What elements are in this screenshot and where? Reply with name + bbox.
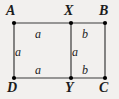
- vertex-label-a: A: [6, 4, 15, 18]
- edge-length-label-dy: a: [35, 64, 41, 76]
- vertex-dot-b: [103, 21, 107, 25]
- edge-length-label-xy: a: [72, 46, 78, 58]
- vertex-dot-a: [12, 21, 16, 25]
- edge-layer: [14, 23, 105, 78]
- vertex-dot-layer: [12, 21, 107, 80]
- vertex-label-x: X: [64, 4, 73, 18]
- edge-length-label-ad: a: [15, 46, 21, 58]
- edge-length-label-yc: b: [82, 64, 88, 76]
- vertex-label-c: C: [99, 81, 108, 95]
- edge-length-label-xb: b: [82, 28, 88, 40]
- vertex-label-y: Y: [65, 81, 74, 95]
- vertex-dot-x: [69, 21, 73, 25]
- vertex-label-d: D: [7, 81, 17, 95]
- edge-length-label-ax: a: [35, 28, 41, 40]
- geometry-diagram-canvas: AXBDYCabaaab: [0, 0, 119, 99]
- vertex-label-b: B: [99, 4, 108, 18]
